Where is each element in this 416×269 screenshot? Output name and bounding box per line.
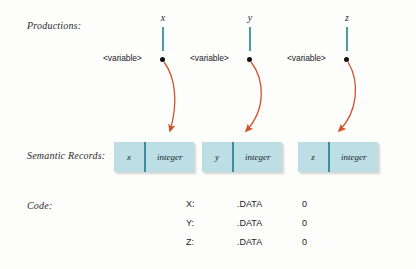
semantic-record-y: y integer — [202, 142, 282, 172]
node-dot-x — [160, 57, 165, 62]
code-directive-1: .DATA — [237, 218, 262, 228]
variable-letter-y: y — [240, 12, 260, 23]
node-dot-y — [247, 57, 252, 62]
record-type-z: integer — [330, 142, 379, 172]
code-value-0: 0 — [302, 199, 307, 209]
code-directive-2: .DATA — [237, 237, 262, 247]
row-label-code: Code: — [27, 200, 52, 211]
arrow-curve-z — [339, 62, 355, 131]
stem-line-z — [346, 27, 348, 51]
record-name-y: y — [202, 142, 232, 172]
variable-letter-x: x — [153, 12, 173, 23]
stem-line-y — [249, 27, 251, 51]
code-label-0: X: — [186, 199, 195, 209]
node-dot-z — [344, 57, 349, 62]
stem-line-x — [162, 27, 164, 51]
arrow-curve-y — [246, 62, 261, 131]
semantic-record-z: z integer — [298, 142, 378, 172]
code-value-2: 0 — [302, 237, 307, 247]
record-type-y: integer — [234, 142, 283, 172]
semantic-record-x: x integer — [114, 142, 194, 172]
code-label-2: Z: — [186, 237, 194, 247]
record-name-z: z — [298, 142, 328, 172]
code-directive-0: .DATA — [237, 199, 262, 209]
record-name-x: x — [114, 142, 144, 172]
diagram-canvas: Productions: Semantic Records: Code: x <… — [0, 0, 416, 269]
variable-letter-z: z — [337, 12, 357, 23]
production-text-x: <variable> — [103, 53, 142, 63]
production-text-y: <variable> — [190, 53, 229, 63]
arrow-curve-x — [164, 62, 175, 131]
code-label-1: Y: — [186, 218, 194, 228]
code-value-1: 0 — [302, 218, 307, 228]
row-label-productions: Productions: — [27, 20, 81, 31]
row-label-semantic-records: Semantic Records: — [27, 150, 105, 161]
record-type-x: integer — [146, 142, 195, 172]
production-text-z: <variable> — [287, 53, 326, 63]
arrow-layer — [0, 0, 416, 269]
